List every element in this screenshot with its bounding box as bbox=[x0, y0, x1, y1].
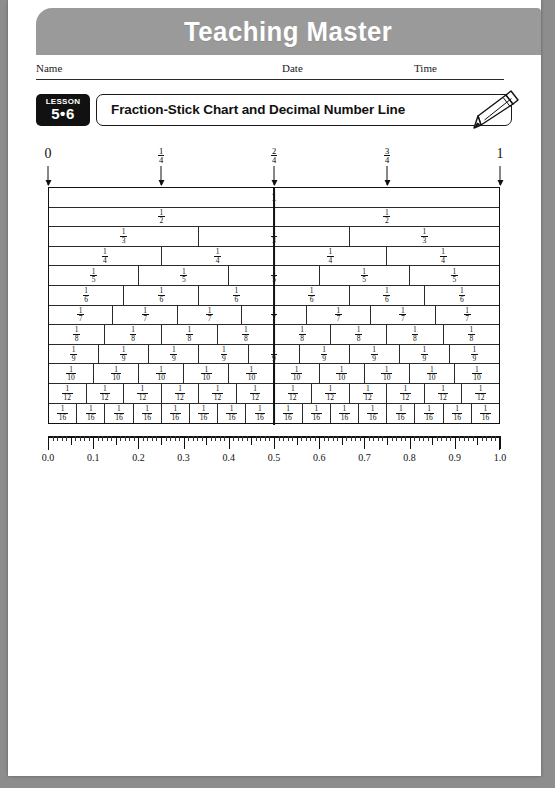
worksheet-page: Teaching Master Name Date Time LESSON 5•… bbox=[8, 0, 541, 776]
tick-minor bbox=[369, 436, 370, 441]
fraction-cell: 19 bbox=[400, 345, 450, 364]
tick-minor bbox=[80, 436, 81, 441]
tick-minor bbox=[310, 436, 311, 441]
cell-value: 116 bbox=[226, 405, 237, 421]
fraction-cell: 110 bbox=[274, 364, 319, 383]
fraction-cell: 112 bbox=[199, 384, 237, 403]
cell-value: 15 bbox=[451, 268, 458, 284]
fraction-row-9: 191919191919191919 bbox=[49, 345, 499, 365]
tick-minor bbox=[428, 436, 429, 441]
tick-major bbox=[410, 436, 411, 449]
fraction-row-8: 1818181818181818 bbox=[49, 325, 499, 345]
name-date-time-row: Name Date Time bbox=[36, 62, 504, 82]
number-line-label: 0.6 bbox=[313, 452, 326, 463]
tick-minor bbox=[378, 436, 379, 441]
cell-value: 15 bbox=[180, 268, 187, 284]
cell-value: 14 bbox=[102, 248, 109, 264]
quarter-marker: 34 bbox=[367, 147, 407, 167]
cell-value: 112 bbox=[62, 385, 73, 401]
tick-minor bbox=[283, 436, 284, 441]
fraction-cell: 19 bbox=[249, 345, 299, 364]
cell-value: 116 bbox=[480, 405, 491, 421]
fraction-cell: 110 bbox=[455, 364, 499, 383]
tick-major bbox=[500, 436, 501, 449]
cell-value: 18 bbox=[130, 326, 137, 342]
marker-arrow-icon bbox=[387, 166, 388, 185]
fraction-stick-grid: 1121213131314141414151515151516161616161… bbox=[48, 187, 500, 424]
fraction-cell: 13 bbox=[350, 227, 499, 246]
tick-minor bbox=[419, 436, 420, 441]
page-frame: Teaching Master Name Date Time LESSON 5•… bbox=[0, 0, 555, 788]
tick-minor bbox=[147, 436, 148, 441]
fraction-cell: 16 bbox=[49, 286, 124, 305]
tick-minor bbox=[414, 436, 415, 441]
tick-minor bbox=[193, 436, 194, 441]
cell-value: 110 bbox=[336, 366, 347, 382]
marker-label: 1 bbox=[480, 147, 520, 161]
tick-minor bbox=[495, 436, 496, 441]
fraction-cell: 116 bbox=[77, 404, 105, 424]
cell-value: 112 bbox=[438, 385, 449, 401]
tick-minor bbox=[401, 436, 402, 441]
fraction-cell: 116 bbox=[303, 404, 331, 424]
fraction-cell: 116 bbox=[444, 404, 472, 424]
fraction-cell: 112 bbox=[49, 384, 87, 403]
tick-minor bbox=[441, 436, 442, 441]
tick-major bbox=[229, 436, 230, 449]
tick-mid bbox=[297, 436, 298, 445]
fraction-cell: 19 bbox=[300, 345, 350, 364]
marker-fraction: 14 bbox=[158, 147, 164, 164]
cell-value: 18 bbox=[186, 326, 193, 342]
cell-value: 116 bbox=[86, 405, 97, 421]
cell-value: 116 bbox=[396, 405, 407, 421]
fraction-cell: 110 bbox=[184, 364, 229, 383]
teaching-master-banner: Teaching Master bbox=[36, 8, 541, 55]
marker-arrow-icon bbox=[161, 166, 162, 185]
cell-value: 116 bbox=[424, 405, 435, 421]
number-line-label: 0.3 bbox=[177, 452, 190, 463]
fraction-cell: 18 bbox=[49, 325, 105, 344]
fraction-cell: 112 bbox=[162, 384, 200, 403]
fraction-cell: 12 bbox=[275, 208, 500, 227]
tick-minor bbox=[125, 436, 126, 441]
marker-arrow-icon bbox=[274, 166, 275, 185]
tick-mid bbox=[251, 436, 252, 445]
tick-mid bbox=[477, 436, 478, 445]
tick-minor bbox=[111, 436, 112, 441]
fraction-cell: 18 bbox=[162, 325, 218, 344]
cell-value: 110 bbox=[111, 366, 122, 382]
fraction-cell: 110 bbox=[229, 364, 274, 383]
cell-value: 14 bbox=[327, 248, 334, 264]
fraction-cell: 19 bbox=[99, 345, 149, 364]
cell-value: 17 bbox=[399, 307, 406, 323]
pencil-icon bbox=[461, 89, 525, 133]
cell-value: 12 bbox=[158, 209, 165, 225]
tick-minor bbox=[84, 436, 85, 441]
cell-value: 16 bbox=[383, 287, 390, 303]
tick-minor bbox=[464, 436, 465, 441]
cell-value: 15 bbox=[361, 268, 368, 284]
cell-value: 112 bbox=[325, 385, 336, 401]
fraction-cell: 17 bbox=[49, 306, 113, 325]
lesson-number: 5•6 bbox=[36, 106, 90, 122]
cell-value: 17 bbox=[271, 307, 278, 323]
tick-minor bbox=[156, 436, 157, 441]
tick-mid bbox=[387, 436, 388, 445]
cell-value: 16 bbox=[308, 287, 315, 303]
fraction-cell: 112 bbox=[124, 384, 162, 403]
tick-minor bbox=[215, 436, 216, 441]
tick-minor bbox=[360, 436, 361, 441]
tick-minor bbox=[179, 436, 180, 441]
tick-minor bbox=[279, 436, 280, 441]
cell-value: 17 bbox=[142, 307, 149, 323]
marker-fraction: 34 bbox=[384, 147, 390, 164]
fraction-cell: 112 bbox=[425, 384, 463, 403]
cell-value: 19 bbox=[321, 346, 328, 362]
tick-minor bbox=[260, 436, 261, 441]
cell-value: 112 bbox=[400, 385, 411, 401]
number-line-label: 0.4 bbox=[223, 452, 236, 463]
cell-value: 18 bbox=[412, 326, 419, 342]
tick-mid bbox=[161, 436, 162, 445]
cell-value: 18 bbox=[242, 326, 249, 342]
fraction-cell: 110 bbox=[410, 364, 455, 383]
